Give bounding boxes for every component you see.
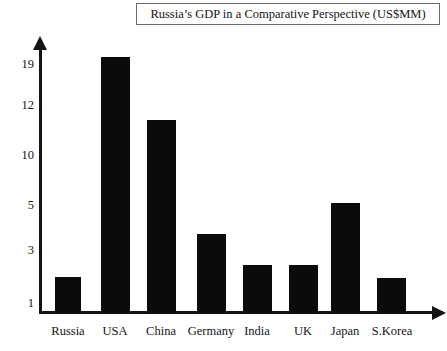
bar-japan <box>331 203 360 313</box>
x-axis-tick-label: S.Korea <box>372 325 413 338</box>
x-axis-tick-label: Russia <box>51 325 84 338</box>
x-axis-tick-label: UK <box>294 325 312 338</box>
plot-area: 191210531 RussiaUSAChinaGermanyIndiaUKJa… <box>0 0 447 351</box>
x-axis-tick-label: USA <box>102 325 127 338</box>
bar-germany <box>197 234 226 313</box>
bar-uk <box>289 265 318 313</box>
x-axis-tick-labels: RussiaUSAChinaGermanyIndiaUKJapanS.Korea <box>0 325 447 345</box>
bar-russia <box>55 277 81 313</box>
chart-page: Russia’s GDP in a Comparative Perspectiv… <box>0 0 447 351</box>
bar-s-korea <box>377 278 406 313</box>
x-axis-tick-label: China <box>146 325 176 338</box>
bar-india <box>243 265 272 313</box>
bar-china <box>147 120 176 313</box>
bar-series <box>0 0 447 351</box>
x-axis-tick-label: Germany <box>188 325 235 338</box>
x-axis-tick-label: Japan <box>331 325 359 338</box>
x-axis-tick-label: India <box>244 325 270 338</box>
bar-usa <box>101 57 130 313</box>
